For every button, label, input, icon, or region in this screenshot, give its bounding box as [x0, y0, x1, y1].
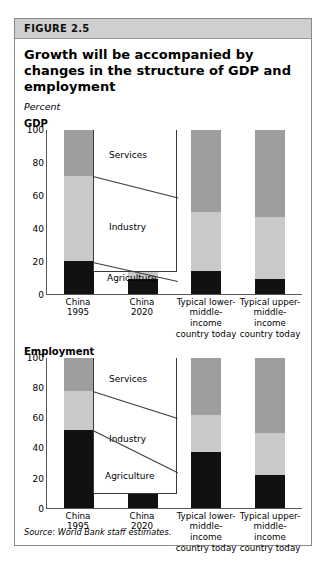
stacked-bar[interactable]: [191, 130, 221, 294]
y-axis-tick: 60: [33, 413, 47, 423]
x-axis-label: Typical lower-middle-incomecountry today: [174, 297, 238, 340]
bar-segment-services[interactable]: [255, 130, 285, 217]
y-axis-tick: 40: [33, 443, 47, 453]
bar-segment-agriculture[interactable]: [255, 475, 285, 508]
bar-segment-services[interactable]: [64, 130, 94, 176]
stacked-bar[interactable]: [64, 358, 94, 508]
y-axis-tick: 100: [27, 125, 47, 135]
figure-units-subtitle: Percent: [24, 101, 302, 112]
x-axis-label-line: 2020: [131, 307, 153, 317]
source-note: Source: World Bank staff estimates.: [24, 527, 171, 537]
bar-group: [175, 130, 239, 294]
bar-segment-industry[interactable]: [255, 217, 285, 279]
bar-group: [238, 130, 302, 294]
bar-segment-agriculture[interactable]: [191, 271, 221, 294]
bar-segment-agriculture[interactable]: [255, 279, 285, 294]
bar-segment-industry[interactable]: [64, 176, 94, 261]
y-axis-tick: 80: [33, 383, 47, 393]
x-axis-label-line: China: [130, 297, 155, 307]
x-axis-label-line: middle-income: [254, 307, 287, 328]
callout-label-services: Services: [109, 374, 147, 384]
bar-segment-services[interactable]: [64, 358, 94, 391]
bar-group: [175, 358, 239, 508]
stacked-bar[interactable]: [64, 130, 94, 294]
y-axis-tick: 0: [38, 290, 47, 300]
x-axis-label: Typical upper-middle-incomecountry today: [238, 511, 302, 554]
bar-segment-industry[interactable]: [64, 391, 94, 430]
y-axis-tick: 100: [27, 353, 47, 363]
y-axis-tick: 0: [38, 504, 47, 514]
x-axis-label-line: country today: [176, 543, 237, 553]
y-axis-tick: 40: [33, 224, 47, 234]
x-axis-label: Typical lower-middle-incomecountry today: [174, 511, 238, 554]
bar-segment-services[interactable]: [191, 130, 221, 212]
panel-employment-label: Employment: [24, 346, 302, 357]
y-axis-tick: 80: [33, 158, 47, 168]
x-axis-label-line: Typical upper-: [240, 511, 300, 521]
stacked-bar[interactable]: [255, 130, 285, 294]
x-axis-label: Typical upper-middle-incomecountry today: [238, 297, 302, 340]
gdp-plot: 020406080100ServicesIndustryAgriculture …: [24, 130, 302, 340]
x-axis-label-line: Typical lower-: [177, 511, 236, 521]
x-axis-label-line: Typical lower-: [177, 297, 236, 307]
y-axis-tick: 20: [33, 257, 47, 267]
bar-segment-industry[interactable]: [191, 212, 221, 271]
x-axis-label-line: country today: [176, 329, 237, 339]
bar-segment-services[interactable]: [255, 358, 285, 433]
x-axis-label-line: China: [66, 511, 91, 521]
bar-segment-industry[interactable]: [191, 415, 221, 453]
panel-employment: Employment 020406080100ServicesIndustryA…: [24, 346, 302, 554]
y-axis-tick: 20: [33, 474, 47, 484]
x-axis-label-line: middle-income: [190, 307, 223, 328]
bar-segment-agriculture[interactable]: [64, 430, 94, 508]
figure-number-label: FIGURE 2.5: [24, 23, 90, 34]
bar-segment-agriculture[interactable]: [191, 452, 221, 508]
employment-axis-area: 020406080100ServicesIndustryAgriculture: [46, 358, 302, 509]
y-axis-tick: 60: [33, 191, 47, 201]
figure-frame: FIGURE 2.5 Growth will be accompanied by…: [14, 18, 312, 546]
figure-body: Growth will be accompanied by changes in…: [15, 39, 311, 554]
bar-segment-services[interactable]: [191, 358, 221, 415]
stacked-bar[interactable]: [255, 358, 285, 508]
stacked-bar[interactable]: [191, 358, 221, 508]
bar-group: [238, 358, 302, 508]
x-axis-label-line: Typical upper-: [240, 297, 300, 307]
callout-label-agriculture: Agriculture: [105, 471, 155, 481]
callout-label-services: Services: [109, 150, 147, 160]
bar-segment-industry[interactable]: [255, 433, 285, 475]
figure-number-band: FIGURE 2.5: [15, 19, 311, 39]
x-axis-label-line: 1995: [67, 307, 89, 317]
figure-title: Growth will be accompanied by changes in…: [24, 47, 302, 95]
bar-segment-agriculture[interactable]: [64, 261, 94, 294]
x-axis-label-line: middle-income: [254, 521, 287, 542]
x-axis-label-line: China: [130, 511, 155, 521]
gdp-x-axis-labels: China1995China2020Typical lower-middle-i…: [46, 297, 302, 340]
x-axis-label-line: country today: [240, 543, 301, 553]
gdp-axis-area: 020406080100ServicesIndustryAgriculture: [46, 130, 302, 295]
x-axis-label-line: country today: [240, 329, 301, 339]
x-axis-label-line: China: [66, 297, 91, 307]
panel-gdp-label: GDP: [24, 118, 302, 129]
x-axis-label: China2020: [110, 297, 174, 340]
x-axis-label: China1995: [46, 297, 110, 340]
employment-plot: 020406080100ServicesIndustryAgriculture …: [24, 358, 302, 554]
callout-label-industry: Industry: [109, 222, 146, 232]
panel-gdp: GDP 020406080100ServicesIndustryAgricult…: [24, 118, 302, 340]
x-axis-label-line: middle-income: [190, 521, 223, 542]
